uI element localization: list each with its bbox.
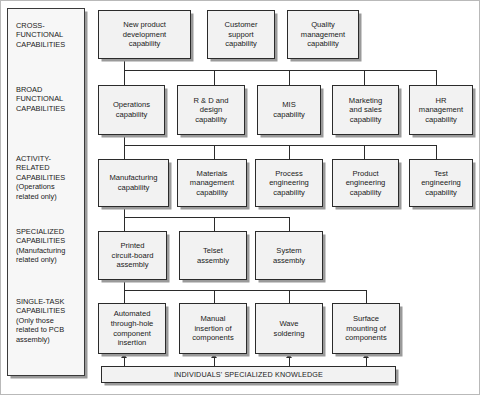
node-operations-capability[interactable]: Operations capability: [98, 85, 165, 135]
node-manufacturing-capability[interactable]: Manufacturing capability: [98, 159, 169, 207]
node-surface-mounting-of-components[interactable]: Surface mounting of components: [332, 303, 400, 354]
node-line: insertion of: [192, 324, 233, 334]
legend-item-specialized: SPECIALIZED CAPABILITIES (Manufacturing …: [16, 227, 84, 265]
node-line: HR: [419, 96, 463, 106]
connector-r5-up-automated: [124, 290, 125, 303]
node-line: development: [123, 30, 166, 40]
connector-r2-up-mis: [289, 70, 290, 85]
node-line: capability: [123, 39, 166, 49]
connector-bus-row3-row4: [124, 217, 290, 218]
node-marketing-and-sales-capability[interactable]: Marketing and sales capability: [332, 85, 399, 135]
node-line: engineering: [421, 178, 461, 188]
node-line: insertion: [111, 338, 154, 348]
legend-line: CAPABILITIES: [16, 40, 84, 49]
node-line: assembly: [112, 260, 154, 270]
legend-line: CROSS-: [16, 21, 84, 30]
node-line: and sales: [349, 105, 382, 115]
node-line: Test: [421, 169, 461, 179]
connector-r1-drop-operations: [124, 59, 125, 70]
node-line: engineering: [346, 178, 386, 188]
node-line: New product: [123, 20, 166, 30]
node-manual-insertion-of-components[interactable]: Manual insertion of components: [179, 303, 247, 354]
connector-r5-up-wave: [289, 290, 290, 303]
bottom-bar-label: INDIVIDUALS' SPECIALIZED KNOWLEDGE: [174, 370, 323, 379]
node-system-assembly[interactable]: System assembly: [255, 231, 323, 280]
node-line: Operations: [113, 100, 150, 110]
node-line: assembly: [273, 256, 305, 266]
arrow-up-icon: [363, 354, 369, 358]
node-line: Marketing: [349, 96, 382, 106]
connector-r4-drop-pcb: [124, 280, 125, 290]
legend-item-cross-functional: CROSS- FUNCTIONAL CAPABILITIES: [16, 21, 84, 49]
legend-note: (Operations: [16, 182, 84, 191]
connector-r3-drop-manufacturing: [124, 207, 125, 217]
node-line: component: [111, 329, 154, 339]
connector-r4-up-pcb: [124, 217, 125, 231]
legend-line: BROAD: [16, 85, 84, 94]
node-line: capability: [225, 39, 258, 49]
arrow-up-icon: [211, 354, 217, 358]
node-automated-through-hole-component-insertion[interactable]: Automated through-hole component inserti…: [98, 303, 166, 354]
node-process-engineering-capability[interactable]: Process engineering capability: [255, 159, 323, 207]
legend-line: SPECIALIZED: [16, 227, 84, 236]
legend-note: related only): [16, 192, 84, 201]
connector-r2-up-operations: [124, 70, 125, 85]
node-line: R & D and: [193, 96, 228, 106]
legend-line: FUNCTIONAL: [16, 94, 84, 103]
node-line: capability: [193, 115, 228, 125]
connector-r3-up-process: [289, 145, 290, 159]
individuals-specialized-knowledge-bar[interactable]: INDIVIDUALS' SPECIALIZED KNOWLEDGE: [101, 366, 396, 383]
node-mis-capability[interactable]: MIS capability: [257, 85, 321, 135]
node-line: System: [273, 246, 305, 256]
legend-note: assembly): [16, 335, 84, 344]
connector-r4-up-system: [289, 217, 290, 231]
node-line: management: [190, 178, 234, 188]
node-line: Automated: [111, 309, 154, 319]
legend-line: CAPABILITIES: [16, 306, 84, 315]
node-line: engineering: [269, 178, 309, 188]
arrow-up-icon: [121, 354, 127, 358]
connector-r4-up-telset: [214, 217, 215, 231]
node-rd-and-design-capability[interactable]: R & D and design capability: [177, 85, 245, 135]
node-line: soldering: [274, 329, 305, 339]
node-line: Materials: [190, 169, 234, 179]
node-line: capability: [421, 188, 461, 198]
node-line: capability: [273, 110, 305, 120]
node-line: Process: [269, 169, 309, 179]
legend-column: CROSS- FUNCTIONAL CAPABILITIES BROAD FUN…: [7, 8, 85, 376]
node-line: components: [345, 333, 386, 343]
connector-r5-up-surface: [366, 290, 367, 303]
capability-hierarchy-figure: CROSS- FUNCTIONAL CAPABILITIES BROAD FUN…: [0, 0, 480, 395]
connector-bus-row1-row2: [124, 70, 437, 71]
connector-r2-up-marketing: [364, 70, 365, 85]
node-line: Printed: [112, 241, 154, 251]
node-printed-circuit-board-assembly[interactable]: Printed circuit-board assembly: [98, 231, 167, 280]
node-test-engineering-capability[interactable]: Test engineering capability: [409, 159, 473, 207]
legend-line: FUNCTIONAL: [16, 30, 84, 39]
legend-item-activity-related: ACTIVITY- RELATED CAPABILITIES (Operatio…: [16, 154, 84, 201]
legend-line: CAPABILITIES: [16, 104, 84, 113]
node-wave-soldering[interactable]: Wave soldering: [255, 303, 323, 354]
node-product-engineering-capability[interactable]: Product engineering capability: [332, 159, 399, 207]
node-materials-management-capability[interactable]: Materials management capability: [177, 159, 247, 207]
node-hr-management-capability[interactable]: HR management capability: [409, 85, 473, 135]
legend-note: (Manufacturing: [16, 246, 84, 255]
connector-r2-up-hr: [436, 70, 437, 85]
legend-note: related to PCB: [16, 325, 84, 334]
legend-note: related only): [16, 255, 84, 264]
connector-bus-row2-row3: [124, 145, 437, 146]
node-line: capability: [301, 39, 345, 49]
connector-r3-up-product: [364, 145, 365, 159]
node-line: Wave: [274, 319, 305, 329]
node-line: management: [419, 105, 463, 115]
node-line: assembly: [197, 256, 229, 266]
node-line: capability: [346, 188, 386, 198]
node-customer-support-capability[interactable]: Customer support capability: [207, 10, 275, 59]
node-quality-management-capability[interactable]: Quality management capability: [287, 10, 359, 59]
legend-item-single-task: SINGLE-TASK CAPABILITIES (Only those rel…: [16, 297, 84, 344]
node-new-product-development-capability[interactable]: New product development capability: [98, 10, 191, 59]
node-telset-assembly[interactable]: Telset assembly: [179, 231, 247, 280]
node-line: Manual: [192, 314, 233, 324]
legend-line: CAPABILITIES: [16, 173, 84, 182]
node-line: circuit-board: [112, 251, 154, 261]
